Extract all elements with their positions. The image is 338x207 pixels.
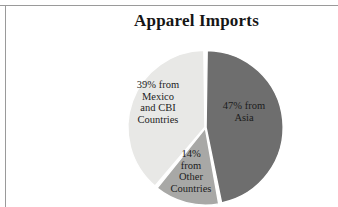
pie-label-other-countries-line-4: Countries: [160, 183, 222, 195]
pie-label-asia-line-1: 47% from: [205, 100, 283, 112]
pie-label-mexico-cbi-line-3: and CBI: [118, 102, 198, 114]
pie-label-other-countries-line-3: Other: [160, 171, 222, 183]
pie-chart-figure: Apparel Imports 47% from Asia 39% from M…: [0, 0, 338, 207]
pie-label-mexico-cbi-line-2: Mexico: [118, 91, 198, 103]
pie-label-asia-line-2: Asia: [205, 112, 283, 124]
pie-chart-area: 47% from Asia 39% from Mexico and CBI Co…: [0, 0, 338, 207]
pie-label-other-countries-line-2: from: [160, 160, 222, 172]
pie-label-other-countries: 14% from Other Countries: [160, 148, 222, 194]
pie-label-mexico-cbi-line-4: Countries: [118, 114, 198, 126]
pie-label-mexico-cbi: 39% from Mexico and CBI Countries: [118, 79, 198, 125]
pie-label-other-countries-line-1: 14%: [160, 148, 222, 160]
pie-label-asia: 47% from Asia: [205, 100, 283, 123]
pie-label-mexico-cbi-line-1: 39% from: [118, 79, 198, 91]
